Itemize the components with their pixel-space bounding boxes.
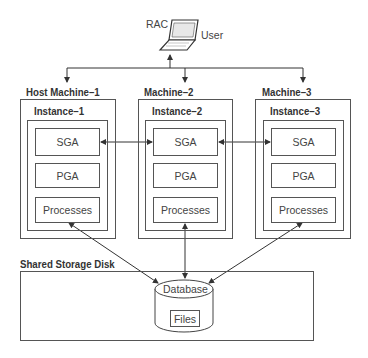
pga-1: PGA bbox=[35, 163, 100, 188]
database-label: Database bbox=[163, 283, 208, 295]
sga-3: SGA bbox=[271, 128, 336, 156]
machine-3-label: Machine–3 bbox=[262, 86, 312, 98]
sga-1: SGA bbox=[35, 128, 100, 156]
machine-2-label: Machine–2 bbox=[144, 86, 194, 98]
instance-2-label: Instance–2 bbox=[152, 105, 202, 117]
machine-1-label: Host Machine–1 bbox=[26, 86, 100, 98]
files-box: Files bbox=[170, 310, 200, 327]
sga-2: SGA bbox=[153, 128, 218, 156]
processes-2: Processes bbox=[153, 197, 218, 223]
pga-2: PGA bbox=[153, 163, 218, 188]
processes-1: Processes bbox=[35, 197, 100, 223]
storage-label: Shared Storage Disk bbox=[20, 258, 115, 270]
user-label: User bbox=[201, 29, 223, 41]
rac-label: RAC bbox=[146, 18, 168, 30]
instance-3-label: Instance–3 bbox=[270, 105, 320, 117]
storage-box bbox=[20, 271, 314, 341]
pga-3: PGA bbox=[271, 163, 336, 188]
instance-1-label: Instance–1 bbox=[34, 105, 84, 117]
processes-3: Processes bbox=[271, 197, 336, 223]
